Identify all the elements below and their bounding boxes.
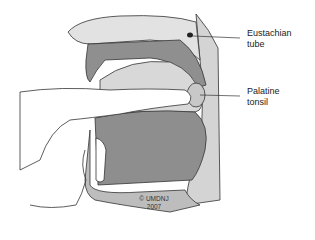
eustachian-opening [187,33,193,38]
copyright-notice: © UMDNJ 2007 [130,195,178,211]
lower-tooth [96,138,106,182]
tongue [95,111,206,185]
eustachian-tube-label: Eustachian tube [247,28,292,50]
palatine-tonsil-label: Palatine tonsil [247,86,280,108]
